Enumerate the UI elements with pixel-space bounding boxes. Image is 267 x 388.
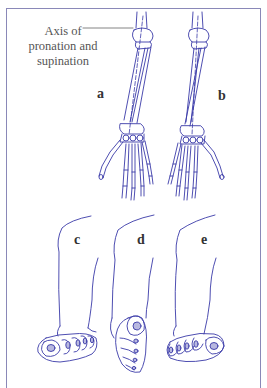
toenail: [47, 345, 55, 352]
forearm-skeleton-b: [168, 12, 224, 200]
leg-foot-d: [110, 215, 154, 372]
forearm-skeleton-a: [99, 12, 153, 200]
leg-foot-c: [38, 216, 98, 362]
leg-foot-e: [167, 215, 224, 362]
